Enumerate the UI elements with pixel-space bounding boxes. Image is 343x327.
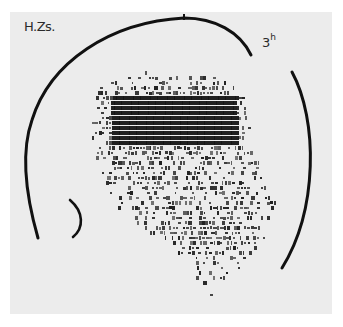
density-cell [120,87,123,90]
density-cell [165,236,167,240]
density-cell [233,86,235,89]
density-cell [201,157,203,159]
density-cell [169,206,172,209]
density-cell [263,237,265,240]
density-cell [174,232,177,235]
density-cell [271,206,274,210]
density-cell [234,206,237,210]
density-cell [244,152,246,155]
density-cell [137,166,139,170]
density-cell [173,241,176,244]
density-cell [184,146,186,150]
density-cell [203,92,205,95]
density-cell [227,241,229,245]
density-cell [150,157,152,160]
density-cell [261,216,263,219]
density-cell [222,191,225,195]
density-cell [239,222,242,225]
density-cell [152,187,154,189]
density-cell [155,176,157,180]
density-cell [92,122,95,125]
density-cell [118,92,120,94]
density-cell [129,196,132,199]
density-cell [203,262,205,264]
density-cell [264,186,266,190]
density-cell [256,167,258,170]
density-cell [211,147,213,149]
density-cell [183,92,185,94]
density-cell [160,172,163,175]
density-cell [265,197,267,199]
density-cell [233,257,236,260]
density-cell [181,252,183,255]
density-cell [203,217,206,219]
density-cell [118,177,121,180]
density-cell [164,182,166,184]
density-cell [121,202,123,205]
density-cell [244,207,247,210]
density-cell [215,231,217,235]
density-cell [246,236,249,240]
density-cell [250,216,252,220]
density-cell [136,197,139,199]
density-cell [213,186,216,190]
density-cell [149,92,152,95]
density-cell [231,196,233,200]
density-cell [159,161,162,165]
density-cell [218,146,221,150]
density-cell [131,152,134,155]
density-cell [206,257,209,260]
density-cell [187,147,190,150]
density-cell [186,176,189,180]
density-cell [135,216,138,220]
density-cell [231,161,233,165]
density-cell [194,196,196,200]
density-cell [176,187,178,190]
density-cell [101,101,104,104]
density-cell [162,186,164,189]
density-cell [239,156,242,160]
density-cell [154,191,157,194]
density-map [0,0,343,327]
density-cell [154,86,157,90]
density-cell [143,172,145,174]
density-cell [190,197,193,200]
density-cell [240,236,242,240]
density-cell [207,92,209,95]
density-cell [224,91,226,95]
density-cell [154,182,157,185]
density-cell [197,266,200,270]
density-cell [188,252,191,255]
density-cell [238,136,240,139]
density-cell [219,252,221,254]
density-cell [152,161,154,165]
density-cell [163,171,165,175]
density-cell [188,182,190,185]
density-cell [111,152,113,155]
density-cell [223,276,225,280]
density-cell [238,232,240,235]
density-cell [258,226,261,230]
density-cell [257,237,259,239]
density-cell [165,222,167,225]
density-cell [236,201,238,204]
density-cell [122,161,125,165]
density-cell [254,246,257,250]
density-cell [190,186,192,190]
density-cell [99,121,101,124]
density-cell [196,247,199,249]
density-cell [199,152,201,154]
density-cell [200,162,202,164]
density-cell [163,197,166,200]
density-cell [238,117,241,120]
density-cell [229,236,231,240]
density-cell [234,226,237,230]
density-cell [214,172,217,175]
density-cell [243,167,246,169]
density-cell [132,206,134,210]
time-label: 3h [262,34,276,50]
density-cell [233,237,235,239]
density-cell [185,201,187,205]
density-cell [172,152,174,155]
density-cell [247,152,249,155]
